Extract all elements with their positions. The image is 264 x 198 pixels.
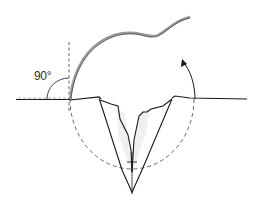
flap-diagram bbox=[0, 0, 264, 198]
skin-surface-line bbox=[70, 96, 247, 100]
angle-label: 90° bbox=[34, 69, 51, 83]
excision-fill bbox=[99, 100, 172, 175]
raised-flap bbox=[70, 17, 190, 99]
rotation-arrow bbox=[184, 63, 195, 99]
raised-flap-inner bbox=[71, 18, 190, 99]
